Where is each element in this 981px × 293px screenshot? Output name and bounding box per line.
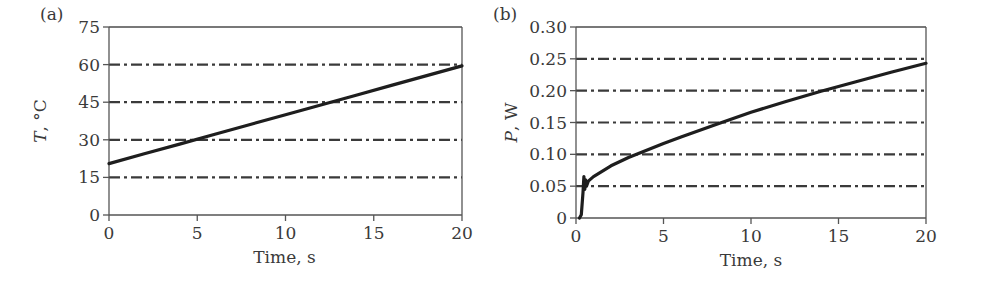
y-tick-label: 0.30	[529, 17, 567, 37]
figure-canvas: 0153045607505101520Time, sT, °C(a)00.050…	[0, 0, 981, 293]
y-axis-label: T, °C	[30, 99, 50, 143]
y-tick-label: 0.20	[529, 81, 567, 101]
x-tick-label: 5	[192, 223, 203, 243]
x-tick-label: 15	[363, 223, 385, 243]
x-tick-label: 5	[658, 226, 669, 246]
x-tick-label: 0	[571, 226, 582, 246]
y-tick-label: 0.15	[529, 113, 567, 133]
x-tick-label: 20	[915, 226, 937, 246]
y-tick-label: 0.10	[529, 144, 567, 164]
x-tick-label: 20	[451, 223, 473, 243]
y-axis-label: P, W	[501, 102, 521, 143]
data-line-power	[580, 63, 927, 218]
y-tick-label: 0.05	[529, 176, 567, 196]
y-tick-label: 0.25	[529, 49, 567, 69]
panel-label: (a)	[40, 4, 63, 24]
x-tick-label: 0	[104, 223, 115, 243]
panel-label: (b)	[493, 4, 517, 24]
y-tick-label: 15	[78, 167, 100, 187]
data-line-temperature	[109, 66, 462, 164]
x-axis-label: Time, s	[720, 250, 783, 270]
y-tick-label: 0	[556, 208, 567, 228]
x-tick-label: 10	[740, 226, 762, 246]
y-tick-label: 75	[78, 17, 100, 37]
x-tick-label: 10	[275, 223, 297, 243]
x-axis-label: Time, s	[253, 247, 316, 267]
y-tick-label: 30	[78, 130, 100, 150]
y-tick-label: 45	[78, 92, 100, 112]
chart-panel-b: 00.050.100.150.200.250.3005101520Time, s…	[493, 4, 937, 270]
y-tick-label: 0	[89, 205, 100, 225]
y-tick-label: 60	[78, 55, 100, 75]
x-tick-label: 15	[828, 226, 850, 246]
chart-panel-a: 0153045607505101520Time, sT, °C(a)	[30, 4, 473, 267]
